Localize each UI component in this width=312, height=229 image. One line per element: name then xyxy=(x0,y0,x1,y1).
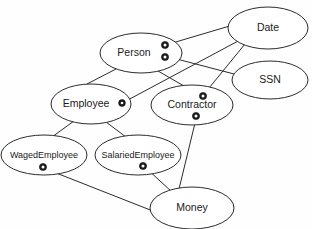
marker-wagedemployee-bottom[interactable] xyxy=(39,163,46,170)
marker-contractor-top-inner-hole-icon xyxy=(202,95,205,98)
marker-person-lower[interactable] xyxy=(161,53,168,60)
marker-contractor-bottom-inner-hole-icon xyxy=(195,115,198,118)
nodes-layer: PersonDateSSNEmployeeContractorWagedEmpl… xyxy=(1,7,308,229)
edge-person-to-employee xyxy=(87,69,116,84)
node-label-wagedemployee: WagedEmployee xyxy=(10,150,78,160)
node-label-person: Person xyxy=(117,46,150,58)
edge-employee-to-wagedemployee xyxy=(52,121,74,137)
marker-employee-right[interactable] xyxy=(119,100,126,107)
edge-person-to-contractor xyxy=(158,71,184,86)
marker-contractor-top[interactable] xyxy=(199,92,206,99)
node-label-contractor: Contractor xyxy=(167,98,217,110)
node-date[interactable]: Date xyxy=(228,7,308,49)
node-label-ssn: SSN xyxy=(259,73,281,85)
node-contractor[interactable]: Contractor xyxy=(151,85,233,125)
marker-salariedemployee-bottom-inner-hole-icon xyxy=(142,165,145,168)
node-money[interactable]: Money xyxy=(150,187,234,229)
edge-contractor-to-money xyxy=(179,119,196,189)
node-person[interactable]: Person xyxy=(100,33,182,73)
node-label-salariedemployee: SalariedEmployee xyxy=(101,150,174,160)
edge-person-to-date xyxy=(169,25,233,44)
marker-employee-right-inner-hole-icon xyxy=(121,102,124,105)
node-label-employee: Employee xyxy=(63,97,110,109)
ontology-diagram: PersonDateSSNEmployeeContractorWagedEmpl… xyxy=(0,0,312,229)
node-label-money: Money xyxy=(176,201,208,213)
edge-wagedemployee-to-money xyxy=(46,169,163,215)
marker-contractor-bottom[interactable] xyxy=(192,112,199,119)
marker-wagedemployee-bottom-inner-hole-icon xyxy=(42,166,45,169)
edge-employee-to-salariedemployee xyxy=(106,122,126,137)
node-label-date: Date xyxy=(257,21,279,33)
marker-person-upper[interactable] xyxy=(161,41,168,48)
marker-person-upper-inner-hole-icon xyxy=(164,44,167,47)
diagram-canvas-container: PersonDateSSNEmployeeContractorWagedEmpl… xyxy=(0,0,312,229)
marker-salariedemployee-bottom[interactable] xyxy=(139,162,146,169)
node-salariedemployee[interactable]: SalariedEmployee xyxy=(95,135,181,175)
marker-person-lower-inner-hole-icon xyxy=(164,56,167,59)
node-ssn[interactable]: SSN xyxy=(232,61,308,99)
